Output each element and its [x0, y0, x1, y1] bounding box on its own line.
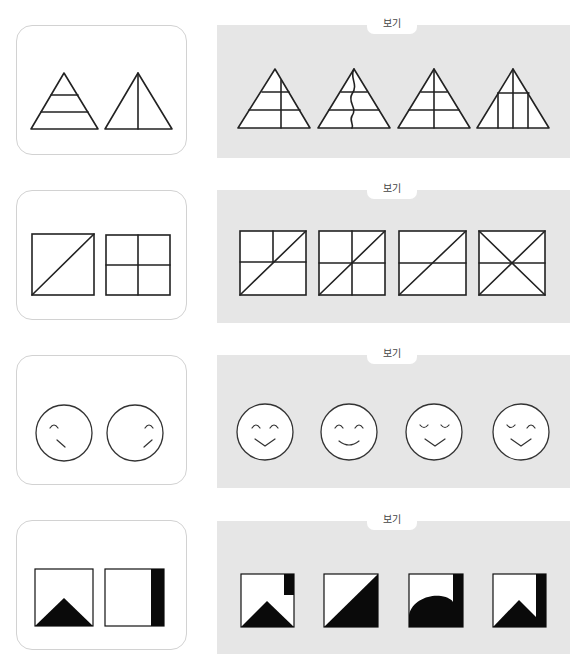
option-4d-square-icon: [493, 574, 546, 627]
question-card-3: [16, 355, 187, 485]
options-label-3: 보기: [367, 346, 417, 364]
question-card-1: [16, 25, 187, 155]
option-3a-face-icon: [237, 404, 293, 460]
options-1-figures: [217, 25, 570, 158]
question-1-figures: [17, 26, 188, 156]
option-4b-square-icon: [324, 574, 378, 627]
option-3b-face-icon: [321, 404, 377, 460]
square-quadrants-icon: [106, 235, 170, 295]
question-4-figures: [17, 521, 188, 651]
option-4a-square-icon: [241, 574, 294, 627]
question-card-4: [16, 520, 187, 650]
option-3c-face-icon: [406, 404, 462, 460]
question-card-2: [16, 190, 187, 320]
square-diagonal-icon: [32, 234, 94, 295]
options-label-1: 보기: [367, 16, 417, 34]
face-left-features-icon: [36, 405, 92, 461]
triangle-horizontal-lines-icon: [31, 73, 98, 129]
option-4c-square-icon: [409, 574, 463, 627]
option-3d-face-icon: [493, 404, 549, 460]
options-label-4: 보기: [367, 512, 417, 530]
option-2c-square-icon: [399, 231, 466, 295]
square-black-strip-icon: [105, 569, 164, 626]
option-2d-square-icon: [479, 231, 545, 295]
option-1-1-icon[interactable]: [239, 72, 303, 128]
question-2-figures: [17, 191, 188, 321]
option-2b-square-icon: [319, 231, 385, 295]
face-right-features-icon: [107, 405, 163, 461]
options-label-2: 보기: [367, 181, 417, 199]
options-panel-1: 보기: [217, 25, 570, 158]
option-2a-square-icon: [240, 231, 306, 295]
triangle-vertical-line-icon: [105, 73, 172, 129]
question-3-figures: [17, 356, 188, 486]
square-black-triangle-icon: [35, 569, 93, 626]
